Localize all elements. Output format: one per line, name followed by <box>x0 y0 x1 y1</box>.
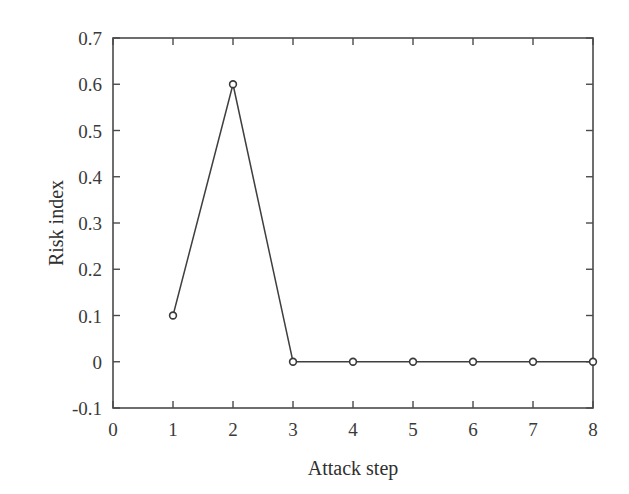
y-axis-ticks <box>113 38 593 408</box>
y-tick-label: 0.6 <box>78 75 102 94</box>
y-tick-label: 0.3 <box>78 214 102 233</box>
x-axis-title: Attack step <box>308 458 399 478</box>
data-point-marker <box>470 358 477 365</box>
x-tick-label: 3 <box>288 420 298 439</box>
x-tick-label: 8 <box>588 420 598 439</box>
data-line-risk-index <box>173 84 593 362</box>
x-tick-label: 0 <box>108 420 118 439</box>
x-tick-label: 7 <box>528 420 538 439</box>
x-axis-ticks <box>113 38 593 408</box>
y-tick-label: 0.1 <box>78 306 102 325</box>
x-tick-label: 5 <box>408 420 418 439</box>
x-tick-label: 2 <box>228 420 238 439</box>
x-tick-label: 4 <box>348 420 358 439</box>
data-point-marker <box>530 358 537 365</box>
data-point-marker <box>350 358 357 365</box>
data-point-marker <box>170 312 177 319</box>
y-axis-title: Risk index <box>46 180 66 266</box>
data-point-marker <box>290 358 297 365</box>
data-point-marker <box>590 358 597 365</box>
y-tick-label: 0.2 <box>78 260 102 279</box>
y-tick-label: 0.7 <box>78 29 102 48</box>
data-point-marker <box>230 81 237 88</box>
x-tick-label: 6 <box>468 420 478 439</box>
y-tick-label: 0.4 <box>78 167 102 186</box>
x-tick-label: 1 <box>168 420 178 439</box>
y-tick-label: -0.1 <box>72 399 102 418</box>
data-point-marker <box>410 358 417 365</box>
axis-frame <box>113 38 593 408</box>
risk-index-line-chart: -0.100.10.20.30.40.50.60.7 012345678 Att… <box>0 0 629 494</box>
data-markers-risk-index <box>170 81 597 365</box>
y-tick-label: 0.5 <box>78 121 102 140</box>
y-tick-label: 0 <box>93 352 103 371</box>
